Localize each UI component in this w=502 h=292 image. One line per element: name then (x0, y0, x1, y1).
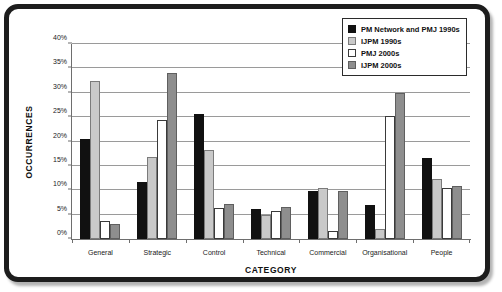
legend-item[interactable]: PMJ 2000s (348, 47, 460, 59)
bar[interactable] (338, 191, 348, 239)
legend-item[interactable]: PM Network and PMJ 1990s (348, 23, 460, 35)
bar-group: Technical (243, 44, 300, 239)
bar[interactable] (167, 73, 177, 239)
legend-swatch-icon (348, 49, 356, 57)
bar-group: General (72, 44, 129, 239)
x-tick-mark (469, 239, 470, 243)
x-tick-label: Strategic (129, 249, 186, 256)
bar[interactable] (204, 150, 214, 239)
bar[interactable] (110, 224, 120, 239)
bar[interactable] (137, 182, 147, 239)
y-tick-label: 15% (53, 155, 67, 162)
bar[interactable] (100, 221, 110, 239)
legend-label: PM Network and PMJ 1990s (361, 25, 460, 34)
x-tick-label: Technical (243, 249, 300, 256)
y-tick-label: 30% (53, 82, 67, 89)
y-tick-label: 5% (57, 204, 67, 211)
y-tick-label: 0% (57, 229, 67, 236)
bar[interactable] (194, 114, 204, 239)
bar-group: Strategic (129, 44, 186, 239)
legend-swatch-icon (348, 61, 356, 69)
bar[interactable] (308, 191, 318, 239)
legend-swatch-icon (348, 25, 356, 33)
x-axis-title: CATEGORY (72, 265, 470, 275)
x-tick-mark (186, 239, 187, 243)
x-tick-mark (356, 239, 357, 243)
y-tick-label: 40% (53, 34, 67, 41)
y-tick-label: 10% (53, 180, 67, 187)
y-tick-label: 20% (53, 131, 67, 138)
bar[interactable] (90, 81, 100, 239)
chart-container: OCCURRENCES 0%5%10%15%20%25%30%35%40% Ge… (9, 9, 485, 277)
bar[interactable] (375, 229, 385, 239)
y-axis-title: OCCURRENCES (24, 72, 34, 212)
bar[interactable] (432, 179, 442, 239)
bar[interactable] (281, 207, 291, 239)
bar[interactable] (80, 139, 90, 239)
legend-label: PMJ 2000s (361, 49, 399, 58)
chart-frame: OCCURRENCES 0%5%10%15%20%25%30%35%40% Ge… (4, 4, 490, 282)
x-tick-mark (413, 239, 414, 243)
bar[interactable] (395, 93, 405, 239)
legend-item[interactable]: IJPM 1990s (348, 35, 460, 47)
bar[interactable] (271, 211, 281, 239)
y-tick-label: 25% (53, 107, 67, 114)
x-tick-label: General (72, 249, 129, 256)
bar[interactable] (251, 209, 261, 239)
chart-legend: PM Network and PMJ 1990sIJPM 1990sPMJ 20… (342, 18, 467, 76)
x-tick-label: People (413, 249, 470, 256)
legend-swatch-icon (348, 37, 356, 45)
x-tick-label: Control (186, 249, 243, 256)
bar[interactable] (261, 215, 271, 239)
bar[interactable] (214, 208, 224, 239)
bar-group: Control (186, 44, 243, 239)
x-tick-mark (129, 239, 130, 243)
x-tick-mark (243, 239, 244, 243)
bar[interactable] (385, 116, 395, 239)
bar[interactable] (422, 158, 432, 239)
legend-item[interactable]: IJPM 2000s (348, 59, 460, 71)
legend-label: IJPM 1990s (361, 37, 401, 46)
y-tick-label: 35% (53, 58, 67, 65)
x-tick-mark (299, 239, 300, 243)
bar[interactable] (224, 204, 234, 239)
bar[interactable] (157, 120, 167, 239)
bar[interactable] (328, 231, 338, 239)
bar[interactable] (365, 205, 375, 239)
x-tick-label: Commercial (299, 249, 356, 256)
x-tick-mark (72, 239, 73, 243)
legend-label: IJPM 2000s (361, 61, 401, 70)
x-tick-label: Organisational (356, 249, 413, 256)
bar[interactable] (147, 157, 157, 239)
bar[interactable] (452, 186, 462, 239)
bar[interactable] (318, 188, 328, 239)
bar[interactable] (442, 188, 452, 239)
